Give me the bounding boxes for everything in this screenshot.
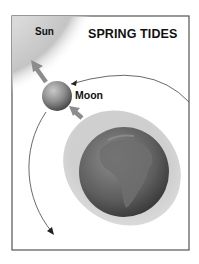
moon-icon bbox=[42, 81, 72, 111]
sun-label: Sun bbox=[35, 26, 54, 37]
spring-tides-diagram: SPRING TIDES Sun Moon bbox=[0, 0, 199, 264]
moon-label: Moon bbox=[75, 89, 103, 101]
diagram-title: SPRING TIDES bbox=[88, 27, 177, 41]
